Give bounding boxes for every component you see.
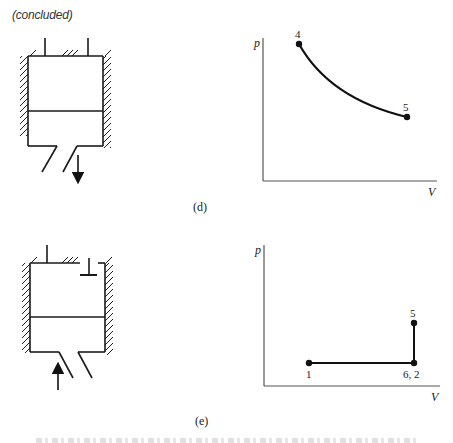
state-point-5 <box>411 320 417 326</box>
pv-diagram-e: p V 5 6, 2 1 <box>254 243 440 404</box>
point-label-5: 5 <box>410 307 416 319</box>
point-label-6-2: 6, 2 <box>403 368 420 380</box>
point-label-1: 1 <box>306 368 312 380</box>
port-wall-left <box>59 352 73 378</box>
port-wall-left <box>42 146 57 172</box>
expansion-curve <box>299 44 407 117</box>
pv-diagram-d: p V 4 5 <box>253 28 437 199</box>
right-wall-hatch <box>105 263 113 355</box>
panel-caption-d: (d) <box>193 200 207 215</box>
left-wall-hatch <box>22 263 30 353</box>
x-axis-label: V <box>431 390 440 404</box>
state-point-6-2 <box>411 360 417 366</box>
piston-cylinder-d <box>20 38 111 172</box>
left-wall-hatch <box>20 56 28 136</box>
state-point-5 <box>404 114 410 120</box>
point-label-4: 4 <box>295 28 301 40</box>
state-point-1 <box>306 360 312 366</box>
clipped-figure-caption <box>36 438 416 443</box>
head-hatch <box>30 50 111 56</box>
piston-cylinder-e <box>22 245 113 378</box>
x-axis-label: V <box>428 185 437 199</box>
state-point-4 <box>296 41 302 47</box>
port-wall-right <box>78 352 92 378</box>
point-label-5: 5 <box>403 101 409 113</box>
port-wall-right <box>63 146 77 172</box>
y-axis-label: p <box>254 243 261 257</box>
head-hatch <box>31 257 112 263</box>
y-axis-label: p <box>253 36 260 50</box>
panel-caption-e: (e) <box>195 414 208 429</box>
figure-canvas: p V 4 5 <box>0 0 453 443</box>
right-wall-hatch <box>103 56 111 148</box>
